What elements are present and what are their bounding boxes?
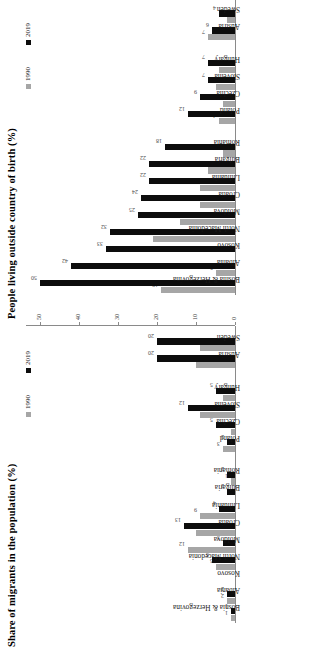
- y-tick-mark: [196, 322, 197, 325]
- bar: [219, 118, 235, 124]
- bar: [223, 395, 235, 401]
- category-label: Bosnia & Herzegovina: [173, 603, 240, 612]
- category-label: Austria: [219, 22, 240, 31]
- category-label: Albania: [217, 586, 240, 595]
- bar: [227, 598, 235, 604]
- legend-swatch-1990: [26, 84, 31, 89]
- bar-value-label: 12: [179, 400, 185, 406]
- bar-value-label: 9: [194, 507, 197, 513]
- bar: [200, 202, 235, 208]
- category-label: Austria: [219, 350, 240, 359]
- bar: [200, 345, 235, 351]
- legend-label-1990: 1990: [24, 67, 32, 81]
- bar: [223, 446, 235, 452]
- bar: [200, 513, 235, 519]
- chart-title-top: People living outside country of birth (…: [6, 128, 17, 319]
- bar-value-label: 32: [101, 224, 107, 230]
- y-tick-mark: [118, 322, 119, 325]
- category-label: Albania: [217, 258, 240, 267]
- y-tick-mark: [79, 322, 80, 325]
- bar-value-label: 9: [194, 89, 197, 95]
- category-label: Moldova: [214, 207, 240, 216]
- bar-value-label: 42: [62, 258, 68, 264]
- bar: [223, 101, 235, 107]
- bar-value-label: 13: [175, 517, 181, 523]
- category-label: Poland: [220, 434, 240, 443]
- category-label: Romania: [214, 466, 240, 475]
- bar: [231, 478, 235, 484]
- bar-value-label: 20: [148, 333, 154, 339]
- bar: [227, 17, 235, 23]
- y-tick-mark: [157, 322, 158, 325]
- category-label: Poland: [220, 106, 240, 115]
- bar-value-label: 22: [140, 155, 146, 161]
- category-label: Bulgaria: [215, 155, 240, 164]
- category-label: Romania: [214, 138, 240, 147]
- y-tick-label: 10: [192, 314, 198, 320]
- legend-label-2019: 2019: [24, 23, 32, 37]
- bar: [231, 429, 235, 435]
- y-tick-label: 20: [153, 314, 159, 320]
- legend-item-1990: 1990: [24, 67, 32, 89]
- bar: [223, 150, 235, 156]
- category-label: Sweden: [217, 5, 240, 14]
- category-label: Slovenia: [214, 72, 240, 81]
- legend-label-2019: 2019: [24, 351, 32, 365]
- bar-value-label: 12: [179, 106, 185, 112]
- bar: [188, 547, 235, 553]
- y-tick-label: 40: [75, 314, 81, 320]
- bar-value-label: 7: [202, 72, 205, 78]
- category-label: Hungary: [214, 383, 240, 392]
- bar: [196, 362, 235, 368]
- legend-item-2019: 2019: [24, 23, 32, 45]
- bar: [216, 84, 236, 90]
- category-label: Bosnia & Herzegovina: [173, 275, 240, 284]
- category-label: Kosovo: [217, 241, 240, 250]
- y-tick-label: 50: [36, 314, 42, 320]
- legend-swatch-1990: [26, 412, 31, 417]
- bar: [219, 67, 235, 73]
- plot-area-bottom: 0102030405011Bosnia & Herzegovina22Alban…: [40, 336, 235, 623]
- category-label: North Macedonia: [189, 552, 240, 561]
- bar: [216, 564, 236, 570]
- chart-panel-people-outside-birth-country: People living outside country of birth (…: [0, 0, 317, 325]
- bar-value-label: 12: [179, 541, 185, 547]
- bar: [153, 236, 235, 242]
- plot-area-top: 020401950Bosnia & Herzegovina542Albania3…: [40, 8, 235, 295]
- bar: [200, 412, 235, 418]
- x-axis-line: [235, 0, 236, 295]
- bar: [216, 270, 236, 276]
- bar-value-label: 24: [132, 189, 138, 195]
- category-label: North Macedonia: [189, 224, 240, 233]
- bar-value-label: 22: [140, 172, 146, 178]
- chart-panel-share-of-migrants: Share of migrants in the population (%) …: [0, 328, 317, 653]
- category-label: Moldova: [214, 535, 240, 544]
- legend-label-1990: 1990: [24, 395, 32, 409]
- bar: [208, 168, 235, 174]
- legend-swatch-2019: [26, 40, 31, 45]
- bar-value-label: 25: [129, 207, 135, 213]
- bar-value-label: 33: [97, 241, 103, 247]
- category-label: Lithuania: [212, 501, 240, 510]
- bar: [71, 263, 235, 269]
- category-label: Kosovo: [217, 569, 240, 578]
- legend-item-1990: 1990: [24, 395, 32, 417]
- category-label: Bulgaria: [215, 483, 240, 492]
- bar-value-label: 20: [148, 350, 154, 356]
- y-tick-label: 30: [114, 314, 120, 320]
- bar: [196, 530, 235, 536]
- y-tick-label: 0: [231, 317, 237, 320]
- bar: [161, 287, 235, 293]
- category-label: Hungary: [214, 55, 240, 64]
- category-label: Lithuania: [212, 173, 240, 182]
- bar: [200, 185, 235, 191]
- category-label: Slovenia: [214, 400, 240, 409]
- bar-value-label: 6: [206, 22, 209, 28]
- chart-title-bottom: Share of migrants in the population (%): [6, 464, 17, 647]
- category-label: Czechia: [217, 417, 241, 426]
- bar-value-label: 7: [202, 54, 205, 60]
- y-tick-mark: [40, 322, 41, 325]
- bar: [106, 246, 235, 252]
- bar: [231, 615, 235, 621]
- legend-item-2019: 2019: [24, 351, 32, 373]
